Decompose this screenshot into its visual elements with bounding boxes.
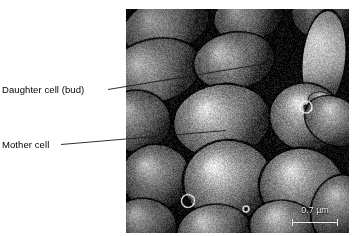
sem-micrograph-image <box>126 9 349 233</box>
figure-root: 0.7 µm Daughter cell (bud) Mother cell <box>0 0 358 236</box>
micrograph-panel: 0.7 µm <box>126 9 349 233</box>
annotation-label-mother-cell: Mother cell <box>2 139 49 150</box>
annotation-label-daughter-cell: Daughter cell (bud) <box>2 84 84 95</box>
